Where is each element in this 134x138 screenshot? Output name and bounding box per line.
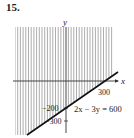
x-axis-arrow-icon xyxy=(115,79,119,82)
x-tick-label-300: 300 xyxy=(98,88,110,97)
y-axis-label: y xyxy=(62,17,67,27)
y-tick-label-neg200: −200 xyxy=(42,104,59,113)
inequality-graph: y x 300 −200 −300 2x − 3y = 600 xyxy=(0,0,134,138)
x-axis-label: x xyxy=(120,76,125,86)
y-tick-label-neg300: −300 xyxy=(45,117,62,126)
equation-label: 2x − 3y = 600 xyxy=(74,104,122,114)
